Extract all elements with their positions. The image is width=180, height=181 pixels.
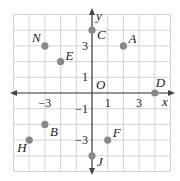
coordinate-plane: x y O −31331−1−3 NECADBHFJ (0, 0, 180, 181)
point-label: N (31, 30, 42, 45)
point-marker (104, 137, 111, 144)
y-tick-label: −1 (75, 102, 88, 116)
point-marker (120, 42, 127, 49)
x-tick-label: −3 (39, 96, 52, 110)
point-label: H (16, 140, 27, 155)
point-J: J (88, 152, 104, 169)
y-axis-label: y (94, 8, 102, 23)
origin-label: O (96, 77, 106, 92)
point-label: D (155, 75, 166, 90)
point-label: F (112, 125, 122, 140)
point-marker (151, 89, 158, 96)
y-tick-label: 1 (82, 70, 88, 84)
point-marker (41, 121, 48, 128)
point-C: C (88, 27, 106, 43)
point-label: E (65, 48, 74, 63)
point-label: C (97, 27, 106, 42)
point-A: A (120, 31, 137, 50)
point-N: N (31, 30, 49, 50)
point-E: E (57, 48, 74, 66)
point-marker (88, 27, 95, 34)
x-axis-arrow-right-icon (168, 90, 175, 96)
point-label: A (127, 31, 136, 46)
y-tick-label: 3 (82, 39, 88, 53)
y-axis-arrow-up-icon (89, 8, 95, 15)
point-F: F (104, 125, 122, 144)
point-H: H (16, 137, 33, 156)
point-B: B (41, 121, 58, 140)
point-marker (26, 137, 33, 144)
y-tick-label: −3 (75, 133, 88, 147)
x-axis-label: x (161, 94, 168, 109)
x-tick-label: 1 (105, 96, 111, 110)
point-label: B (50, 124, 58, 139)
point-marker (57, 58, 64, 65)
point-marker (88, 152, 95, 159)
point-marker (41, 42, 48, 49)
x-tick-label: 3 (136, 96, 142, 110)
